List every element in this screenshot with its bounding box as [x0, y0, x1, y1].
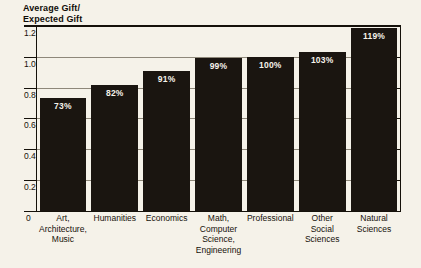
bar: 73%	[40, 98, 87, 211]
bar: 91%	[143, 71, 190, 211]
bar-value-label: 103%	[299, 55, 346, 65]
bar: 103%	[299, 52, 346, 211]
bar-value-label: 82%	[91, 88, 138, 98]
bar-value-label: 73%	[40, 101, 87, 111]
bar-value-label: 119%	[351, 31, 398, 41]
bar: 119%	[351, 28, 398, 211]
x-category-label: Natural Sciences	[339, 213, 409, 234]
bar: 82%	[91, 85, 138, 211]
bar: 99%	[195, 58, 242, 211]
bar-value-label: 99%	[195, 61, 242, 71]
bar-chart: Average Gift/ Expected Gift 00.20.40.60.…	[0, 0, 421, 268]
bar-value-label: 91%	[143, 74, 190, 84]
bar: 100%	[247, 57, 294, 211]
bar-value-label: 100%	[247, 60, 294, 70]
